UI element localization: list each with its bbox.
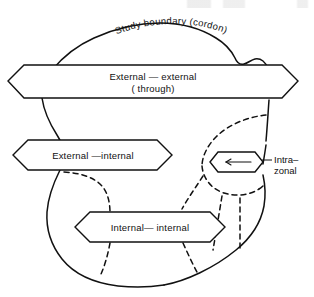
band-internal-internal-label: Internal— internal [111,222,190,233]
band-internal-internal[interactable]: Internal— internal [75,212,225,242]
intra-zonal-label-line1: Intra– [274,154,299,165]
zone-line-center-upper [182,176,203,209]
band-external-internal-label: External —internal [52,150,134,161]
band-intra-zonal[interactable]: Intra– zonal [210,152,299,176]
figure-root: External — external ( through) External … [0,0,314,297]
band-external-external[interactable]: External — external ( through) [8,65,298,98]
cordon-diagram: External — external ( through) External … [0,0,314,297]
cordon-label-group: Study boundary (cordon) [114,15,230,36]
cordon-right-mid-flank [263,145,266,164]
band-external-external-sublabel: ( through) [131,83,174,94]
cordon-label: Study boundary (cordon) [114,15,230,36]
zone-line-left-mid [64,172,110,213]
intra-zonal-label-line2: zonal [274,165,297,176]
band-external-internal[interactable]: External —internal [13,140,172,170]
cordon-left-upper-flank [42,98,61,143]
zone-line-bottom-left [101,243,110,274]
cordon-right-upper-flank [266,100,269,141]
band-external-external-label: External — external [109,71,196,82]
zone-line-bottom-center [183,243,198,274]
